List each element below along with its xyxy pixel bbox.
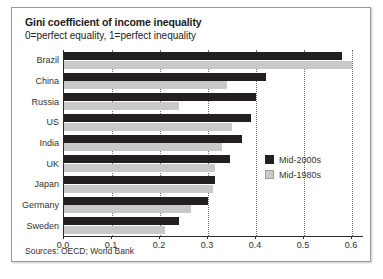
chart-legend: Mid-2000sMid-1980s	[265, 153, 357, 183]
category-label-germany: Germany	[22, 200, 59, 210]
x-axis-tick	[303, 236, 304, 239]
category-axis: BrazilChinaRussiaUSIndiaUKJapanGermanySw…	[12, 50, 63, 236]
bar-sweden-mid-2000s	[64, 217, 179, 225]
x-axis-tick-label: 0.6	[345, 240, 358, 250]
category-label-us: US	[46, 117, 59, 127]
bar-japan-mid-2000s	[64, 176, 215, 184]
bar-russia-mid-1980s	[64, 102, 179, 110]
bar-us-mid-1980s	[64, 123, 232, 131]
chart-card: Gini coefficient of income inequality 0=…	[11, 7, 371, 262]
category-label-china: China	[35, 76, 59, 86]
x-axis-tick	[351, 236, 352, 239]
bar-russia-mid-2000s	[64, 93, 256, 101]
x-axis-tick-label: 0.5	[297, 240, 310, 250]
x-axis-tick	[255, 236, 256, 239]
sources-note: Sources: OECD; World Bank	[25, 246, 134, 256]
x-axis-tick	[63, 236, 64, 239]
x-axis-tick	[207, 236, 208, 239]
x-axis-tick-label: 0.3	[201, 240, 214, 250]
bars-container	[63, 50, 363, 236]
chart-subtitle: 0=perfect equality, 1=perfect inequality	[25, 29, 355, 42]
bar-india-mid-2000s	[64, 135, 242, 143]
legend-item-mid-2000s: Mid-2000s	[265, 153, 357, 166]
bar-india-mid-1980s	[64, 143, 222, 151]
x-axis-tick	[111, 236, 112, 239]
category-label-india: India	[39, 138, 59, 148]
gridline	[352, 50, 353, 236]
legend-label: Mid-2000s	[279, 155, 321, 165]
plot-area: BrazilChinaRussiaUSIndiaUKJapanGermanySw…	[12, 50, 370, 242]
bar-china-mid-1980s	[64, 81, 227, 89]
category-label-japan: Japan	[34, 179, 59, 189]
bar-japan-mid-1980s	[64, 185, 213, 193]
x-axis-tick-label: 0.2	[153, 240, 166, 250]
x-axis-tick-label: 0.4	[249, 240, 262, 250]
bar-brazil-mid-1980s	[64, 61, 352, 69]
legend-item-mid-1980s: Mid-1980s	[265, 168, 357, 181]
bar-china-mid-2000s	[64, 73, 266, 81]
category-label-sweden: Sweden	[26, 221, 59, 231]
bar-germany-mid-2000s	[64, 197, 208, 205]
bar-us-mid-2000s	[64, 114, 251, 122]
bar-sweden-mid-1980s	[64, 226, 165, 234]
category-label-uk: UK	[46, 159, 59, 169]
category-label-brazil: Brazil	[36, 55, 59, 65]
category-label-russia: Russia	[31, 97, 59, 107]
legend-swatch-icon	[265, 155, 274, 164]
chart-title: Gini coefficient of income inequality	[25, 16, 355, 29]
x-axis-line	[63, 236, 363, 237]
legend-swatch-icon	[265, 170, 274, 179]
bar-germany-mid-1980s	[64, 205, 191, 213]
bar-uk-mid-2000s	[64, 155, 230, 163]
bar-uk-mid-1980s	[64, 164, 215, 172]
x-axis-tick	[159, 236, 160, 239]
gridline	[304, 50, 305, 236]
title-block: Gini coefficient of income inequality 0=…	[25, 16, 355, 42]
bar-brazil-mid-2000s	[64, 52, 342, 60]
legend-label: Mid-1980s	[279, 170, 321, 180]
